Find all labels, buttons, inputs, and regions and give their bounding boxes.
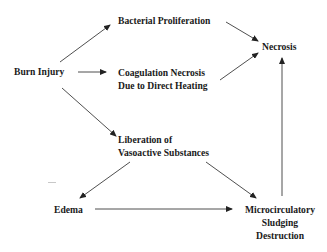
node-bacterial-proliferation: Bacterial Proliferation xyxy=(118,14,210,27)
arrow-liberation-to-edema xyxy=(80,162,130,198)
node-label-line2: Vasoactive Substances xyxy=(118,146,209,159)
node-coagulation-necrosis: Coagulation Necrosis Due to Direct Heati… xyxy=(118,66,208,92)
node-label: Necrosis xyxy=(262,40,296,53)
arrow-bacterial-to-necrosis xyxy=(226,22,258,41)
node-microcirculatory: Microcirculatory Sludging Destruction xyxy=(240,203,320,242)
arrow-coagulation-to-necrosis xyxy=(220,53,258,80)
node-label-line1: Liberation of xyxy=(118,133,209,146)
node-label-line3: Destruction xyxy=(240,229,320,242)
node-label-line1: Microcirculatory xyxy=(240,203,320,216)
stray-mark xyxy=(48,182,56,183)
arrow-burn-to-bacterial xyxy=(60,25,110,62)
node-burn-injury: Burn Injury xyxy=(14,65,64,78)
node-label-line2: Sludging xyxy=(240,216,320,229)
node-necrosis: Necrosis xyxy=(262,40,296,53)
node-liberation-vasoactive: Liberation of Vasoactive Substances xyxy=(118,133,209,159)
node-label: Burn Injury xyxy=(14,65,64,78)
node-edema: Edema xyxy=(54,203,83,216)
arrow-liberation-to-micro xyxy=(206,162,256,198)
node-label-line1: Coagulation Necrosis xyxy=(118,66,208,79)
node-label-line2: Due to Direct Heating xyxy=(118,79,208,92)
node-label: Bacterial Proliferation xyxy=(118,14,210,27)
node-label: Edema xyxy=(54,203,83,216)
arrow-burn-to-liberation xyxy=(62,88,116,136)
